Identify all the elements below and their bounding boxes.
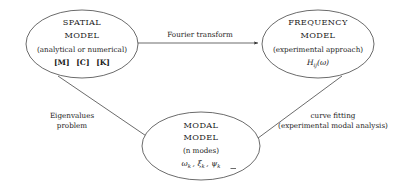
matrix-m-symbol: [M] [54,58,70,67]
node-spatial-model[interactable]: SPATIAL MODEL (analytical or numerical) … [26,10,138,78]
node-frequency-model-title-line1: FREQUENCY [288,17,348,27]
edge-label-curve-fitting-line1: curve fitting [311,111,356,120]
matrix-c-symbol: [C] [76,58,89,67]
mode-shape-subscript: k [217,163,220,169]
matrix-k-symbol: [K] [96,58,110,67]
node-spatial-model-title-line1: SPATIAL [63,17,102,27]
node-spatial-model-title-line2: MODEL [65,30,100,40]
node-spatial-model-symbols: [M] [C] [K] [54,58,110,67]
diagram-canvas: Fourier transform Eigenvalues problem cu… [0,0,402,185]
natural-frequency-subscript: k [188,163,191,169]
node-spatial-model-subtitle: (analytical or numerical) [37,45,127,54]
edge-label-fourier-transform: Fourier transform [167,30,233,39]
node-modal-model-subtitle: (n modes) [183,146,219,155]
node-frequency-model-title-line2: MODEL [301,30,336,40]
damping-ratio-subscript: k [202,163,205,169]
edge-label-eigenvalues-line2: problem [57,121,88,130]
node-frequency-model-subtitle: (experimental approach) [273,45,363,54]
edge-label-curve-fitting-line2: (experimental modal analysis) [278,121,388,130]
node-modal-model[interactable]: MODAL MODEL (n modes) ωk,ξk,ψk [142,112,260,180]
frf-argument: (ω) [317,58,329,67]
edge-frequency-to-modal: curve fitting (experimental modal analys… [250,76,388,144]
diagram-svg: Fourier transform Eigenvalues problem cu… [0,0,402,185]
edge-spatial-to-modal: Eigenvalues problem [50,76,158,144]
arrow-eigenvalues-problem [58,76,158,144]
edge-label-eigenvalues-line1: Eigenvalues [50,111,95,120]
node-frequency-model[interactable]: FREQUENCY MODEL (experimental approach) … [262,10,374,78]
arrow-curve-fitting [250,76,342,144]
node-modal-model-title-line2: MODEL [184,132,219,142]
edge-spatial-to-frequency: Fourier transform [138,30,258,43]
node-modal-model-title-line1: MODAL [184,120,219,130]
node-modal-model-symbols: ωk,ξk,ψk [181,159,220,169]
